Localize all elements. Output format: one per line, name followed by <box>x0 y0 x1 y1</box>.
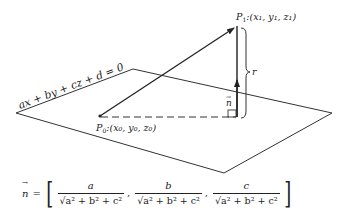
svg-text:→: → <box>226 93 231 100</box>
distance-brace <box>241 28 250 118</box>
formula-equals: = <box>32 188 40 199</box>
distance-label: r <box>252 66 258 77</box>
numerator-b: b <box>165 180 171 193</box>
point-p0-label: P0:(x₀, y₀, z₀) <box>95 122 156 134</box>
numerator-c: c <box>244 180 250 193</box>
formula-component-b: b √a² + b² + c² <box>135 180 202 207</box>
numerator-a: a <box>88 180 94 193</box>
formula-lhs-n: n <box>22 188 28 199</box>
formula-separator: , <box>205 187 208 210</box>
formula-open-bracket: [ <box>46 178 53 208</box>
right-angle-marker <box>228 110 236 117</box>
formula-component-c: c √a² + b² + c² <box>213 180 280 207</box>
formula-component-a: a √a² + b² + c² <box>58 180 125 207</box>
denominator-c: √a² + b² + c² <box>213 193 280 207</box>
formula-close-bracket: ] <box>284 178 291 208</box>
normal-vector-formula: n = [ a √a² + b² + c² , b √a² + b² + c² … <box>22 176 332 210</box>
normal-label: n → <box>226 93 232 108</box>
formula-separator: , <box>127 187 130 210</box>
denominator-a: √a² + b² + c² <box>58 193 125 207</box>
denominator-b: √a² + b² + c² <box>135 193 202 207</box>
point-p1-label: P1:(x₁, y₁, z₁) <box>235 11 296 23</box>
plane-equation-label: ax + by + cz + d = 0 <box>16 60 125 111</box>
